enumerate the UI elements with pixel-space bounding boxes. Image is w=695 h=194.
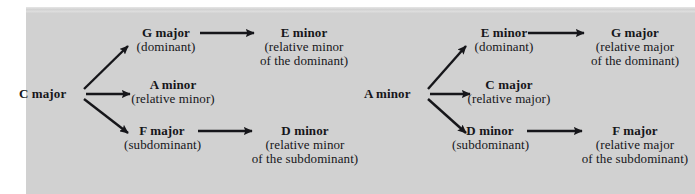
node-sub-line1: (relative minor	[250, 40, 358, 54]
node-sub-line1: (relative major	[574, 138, 695, 152]
node-f-major-subdominant[interactable]: F major (subdominant)	[124, 124, 200, 152]
node-f-major-relative-major-of-subdominant[interactable]: F major (relative major of the subdomina…	[574, 124, 695, 166]
node-head: G major	[132, 26, 200, 40]
node-head: D minor	[452, 124, 528, 138]
node-a-minor-relative-minor[interactable]: A minor (relative minor)	[126, 78, 220, 106]
node-head: D minor	[244, 124, 366, 138]
node-head: A minor	[126, 78, 220, 92]
node-a-minor-root[interactable]: A minor	[364, 87, 411, 101]
node-head: C major	[462, 78, 556, 92]
node-sub-line1: (relative minor	[244, 138, 366, 152]
node-label: A minor	[364, 86, 411, 101]
node-sub: (subdominant)	[452, 138, 528, 152]
node-sub-line1: (relative major	[580, 40, 690, 54]
node-sub-line2: of the subdominant)	[574, 152, 695, 166]
node-g-major-dominant[interactable]: G major (dominant)	[132, 26, 200, 54]
node-c-major-root[interactable]: C major	[19, 87, 66, 101]
node-head: F major	[124, 124, 200, 138]
node-sub: (subdominant)	[124, 138, 200, 152]
node-sub: (relative major)	[462, 92, 556, 106]
node-d-minor-subdominant[interactable]: D minor (subdominant)	[452, 124, 528, 152]
node-sub-line2: of the subdominant)	[244, 152, 366, 166]
diagram-canvas: C major G major (dominant) E minor (rela…	[0, 0, 695, 194]
node-sub-line2: of the dominant)	[580, 54, 690, 68]
node-c-major-relative-major[interactable]: C major (relative major)	[462, 78, 556, 106]
node-d-minor-relative-minor-of-subdominant[interactable]: D minor (relative minor of the subdomina…	[244, 124, 366, 166]
node-head: F major	[574, 124, 695, 138]
node-label: C major	[19, 86, 66, 101]
node-head: E minor	[250, 26, 358, 40]
node-head: E minor	[470, 26, 538, 40]
node-sub: (relative minor)	[126, 92, 220, 106]
node-g-major-relative-major-of-dominant[interactable]: G major (relative major of the dominant)	[580, 26, 690, 68]
node-sub: (dominant)	[470, 40, 538, 54]
node-head: G major	[580, 26, 690, 40]
node-sub: (dominant)	[132, 40, 200, 54]
node-e-minor-dominant[interactable]: E minor (dominant)	[470, 26, 538, 54]
node-e-minor-relative-minor-of-dominant[interactable]: E minor (relative minor of the dominant)	[250, 26, 358, 68]
node-sub-line2: of the dominant)	[250, 54, 358, 68]
